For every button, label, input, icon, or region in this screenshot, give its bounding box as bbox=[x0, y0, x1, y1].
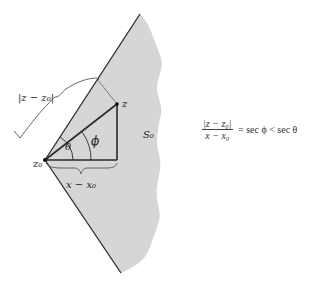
point-z bbox=[115, 102, 119, 106]
sector-diagram: z₀ z |z − z₀| x − x₀ θ ϕ S₀ bbox=[0, 0, 333, 284]
label-z: z bbox=[121, 98, 128, 109]
secant-formula: |z − z₀| x − x₀ = sec ϕ < sec θ bbox=[202, 118, 297, 141]
label-region-s0: S₀ bbox=[143, 129, 154, 140]
label-phi: ϕ bbox=[91, 134, 99, 148]
formula-fraction: |z − z₀| x − x₀ bbox=[202, 118, 233, 141]
point-z0 bbox=[43, 158, 47, 162]
region-s0 bbox=[45, 14, 162, 273]
formula-denominator: x − x₀ bbox=[205, 130, 229, 141]
label-modulus: |z − z₀| bbox=[18, 92, 54, 104]
label-horizontal: x − x₀ bbox=[66, 179, 96, 190]
formula-rest: = sec ϕ < sec θ bbox=[236, 124, 298, 135]
label-theta: θ bbox=[65, 141, 71, 152]
label-z0: z₀ bbox=[32, 158, 42, 169]
formula-numerator: |z − z₀| bbox=[202, 118, 233, 130]
